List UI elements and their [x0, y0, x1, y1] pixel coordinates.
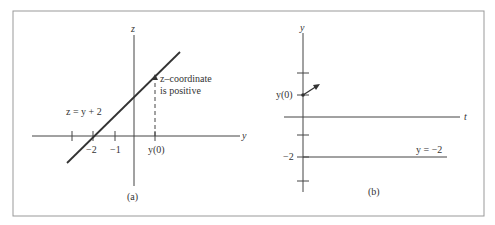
y-axis-label: y: [242, 131, 246, 141]
caption-b: (b): [368, 187, 380, 197]
tick-label-minus-2: −2: [86, 145, 97, 155]
equilibrium-tick-label: −2: [283, 152, 294, 162]
arrow-head-icon: [313, 84, 320, 90]
panel-a-graphics: [32, 35, 240, 186]
equilibrium-equation: y = −2: [416, 145, 442, 155]
z-axis-label: z: [131, 24, 135, 34]
annotation-line2: is positive: [160, 86, 201, 96]
figure: z y z = y + 2 −2 −1 y(0) z–coordinate is…: [0, 0, 495, 225]
annotation-line1: z–coordinate: [160, 74, 212, 84]
line-equation: z = y + 2: [66, 107, 102, 117]
initial-value-label: y(0): [276, 90, 293, 100]
t-axis-label: t: [464, 112, 467, 122]
tick-label-y0: y(0): [148, 145, 165, 155]
caption-a: (a): [127, 192, 138, 202]
tick-label-minus-1: −1: [110, 145, 121, 155]
panel-b-graphics: [284, 33, 460, 192]
y-axis-label-b: y: [300, 23, 304, 33]
